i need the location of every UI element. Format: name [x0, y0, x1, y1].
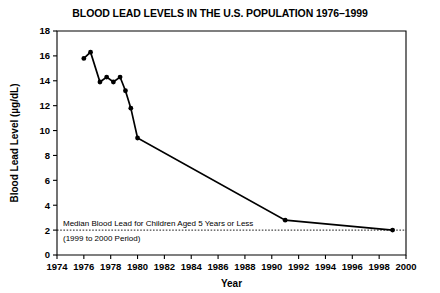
x-tick-1982: 1982 [154, 261, 175, 272]
reference-line-label-secondary: (1999 to 2000 Period) [63, 234, 141, 243]
y-tick-10: 10 [39, 125, 50, 136]
data-point-1999 [390, 228, 395, 233]
y-tick-2: 2 [45, 225, 50, 236]
y-tick-8: 8 [45, 150, 50, 161]
reference-line-label-primary: Median Blood Lead for Children Aged 5 Ye… [63, 219, 253, 228]
x-axis-tick-labels: 1974197619781980198219841986198819901992… [46, 261, 416, 272]
data-point-1979.5 [128, 106, 133, 111]
x-tick-1984: 1984 [181, 261, 203, 272]
y-axis-tick-labels: 024681012141618 [39, 25, 50, 260]
data-point-1979.1 [123, 88, 128, 93]
y-tick-14: 14 [39, 75, 50, 86]
x-tick-1978: 1978 [100, 261, 121, 272]
x-axis-tick-marks [57, 255, 406, 259]
x-tick-1994: 1994 [315, 261, 337, 272]
x-tick-1988: 1988 [234, 261, 255, 272]
y-tick-16: 16 [39, 50, 50, 61]
data-point-1978.2 [111, 80, 116, 85]
y-tick-6: 6 [45, 175, 50, 186]
y-axis-tick-marks [53, 31, 57, 255]
x-tick-1990: 1990 [261, 261, 282, 272]
x-tick-1976: 1976 [73, 261, 94, 272]
data-point-1991 [283, 218, 288, 223]
y-tick-0: 0 [45, 249, 50, 260]
y-tick-4: 4 [45, 200, 51, 211]
data-point-1977.7 [104, 75, 109, 80]
blood-lead-series-line [84, 52, 393, 230]
x-tick-1980: 1980 [127, 261, 148, 272]
data-point-1976.5 [88, 50, 93, 55]
x-tick-1986: 1986 [208, 261, 229, 272]
chart-plot: 024681012141618 197419761978198019821984… [0, 0, 440, 293]
chart-page: BLOOD LEAD LEVELS IN THE U.S. POPULATION… [0, 0, 440, 293]
data-point-1976 [81, 56, 86, 61]
y-axis-title: Blood Lead Level (µg/dL) [9, 83, 20, 202]
y-tick-18: 18 [39, 25, 50, 36]
data-point-1980 [135, 136, 140, 141]
blood-lead-series-markers [81, 50, 395, 233]
y-tick-12: 12 [39, 100, 50, 111]
data-point-1978.7 [118, 75, 123, 80]
x-tick-2000: 2000 [395, 261, 416, 272]
data-point-1977.2 [98, 80, 103, 85]
x-tick-1992: 1992 [288, 261, 309, 272]
x-tick-1996: 1996 [342, 261, 363, 272]
x-axis-title: Year [221, 278, 242, 289]
x-tick-1974: 1974 [46, 261, 68, 272]
x-tick-1998: 1998 [369, 261, 390, 272]
